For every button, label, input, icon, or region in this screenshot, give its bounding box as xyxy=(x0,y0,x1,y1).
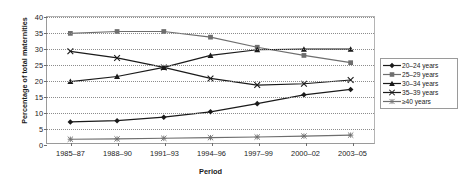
y-tick-label: 30 xyxy=(35,45,43,54)
series-layer xyxy=(47,17,374,143)
data-point-square xyxy=(208,35,213,40)
data-point-asterisk xyxy=(389,99,394,104)
data-point-diamond xyxy=(68,119,74,125)
data-point-diamond xyxy=(389,63,394,68)
gridline xyxy=(47,129,374,130)
x-axis-title: Period xyxy=(46,167,375,176)
y-axis-title: Percentage of total maternities xyxy=(20,1,29,141)
data-point-square xyxy=(390,72,395,77)
y-tick-mark xyxy=(44,33,47,34)
legend-marker-triangle-icon xyxy=(382,79,402,88)
x-tick-label: 2003–05 xyxy=(338,149,367,158)
series-line xyxy=(68,29,353,65)
legend-marker-asterisk-icon xyxy=(382,97,402,106)
gridline xyxy=(47,49,374,50)
legend-label: 35–39 years xyxy=(402,88,438,97)
x-tick-label: 1997–99 xyxy=(244,149,273,158)
y-tick-label: 35 xyxy=(35,29,43,38)
y-tick-mark xyxy=(44,49,47,50)
data-point-asterisk xyxy=(161,136,166,141)
x-tick-label: 1991–93 xyxy=(150,149,179,158)
data-point-square xyxy=(302,53,307,58)
data-point-diamond xyxy=(161,114,167,120)
series-line xyxy=(68,132,354,141)
legend-marker-square-icon xyxy=(382,70,402,79)
legend-marker-diamond-icon xyxy=(382,61,402,70)
y-tick-label: 20 xyxy=(35,77,43,86)
data-point-diamond xyxy=(348,87,354,93)
gridline xyxy=(47,97,374,98)
data-point-asterisk xyxy=(255,134,260,139)
legend-label: 20–24 years xyxy=(402,61,438,70)
gridline xyxy=(47,65,374,66)
data-point-asterisk xyxy=(68,137,73,142)
legend-item-1[interactable]: 25–29 years xyxy=(382,70,455,79)
chart-container: Percentage of total maternities 05101520… xyxy=(0,0,461,188)
gridline xyxy=(47,113,374,114)
x-tick-label: 2000–02 xyxy=(291,149,320,158)
data-point-asterisk xyxy=(348,132,353,137)
x-tick-mark xyxy=(212,143,213,146)
plot-area: 05101520253035401985–871988–901991–93199… xyxy=(46,16,375,144)
legend-marker-cross-icon xyxy=(382,88,402,97)
y-tick-label: 15 xyxy=(35,93,43,102)
legend-label: 30–34 years xyxy=(402,79,438,88)
legend: 20–24 years25–29 years30–34 years35–39 y… xyxy=(380,58,458,109)
x-tick-mark xyxy=(306,143,307,146)
y-tick-label: 40 xyxy=(35,13,43,22)
legend-item-2[interactable]: 30–34 years xyxy=(382,79,455,88)
legend-item-3[interactable]: 35–39 years xyxy=(382,88,455,97)
y-tick-mark xyxy=(44,17,47,18)
legend-item-4[interactable]: ≥40 years xyxy=(382,97,455,106)
legend-label: 25–29 years xyxy=(402,70,438,79)
y-tick-mark xyxy=(44,129,47,130)
y-tick-mark xyxy=(44,97,47,98)
x-tick-label: 1988–90 xyxy=(103,149,132,158)
y-tick-label: 5 xyxy=(39,125,43,134)
y-tick-label: 0 xyxy=(39,141,43,150)
x-tick-mark xyxy=(71,143,72,146)
gridline xyxy=(47,33,374,34)
plot-inner: 05101520253035401985–871988–901991–93199… xyxy=(47,17,374,143)
y-tick-mark xyxy=(44,113,47,114)
gridline xyxy=(47,81,374,82)
x-tick-mark xyxy=(259,143,260,146)
gridline xyxy=(47,17,374,18)
legend-label: ≥40 years xyxy=(402,97,431,106)
data-point-diamond xyxy=(114,118,120,124)
y-tick-label: 25 xyxy=(35,61,43,70)
y-tick-mark xyxy=(44,65,47,66)
series-line xyxy=(68,87,354,125)
x-tick-mark xyxy=(118,143,119,146)
x-tick-label: 1994–96 xyxy=(197,149,226,158)
data-point-asterisk xyxy=(208,135,213,140)
x-tick-label: 1985–87 xyxy=(56,149,85,158)
data-point-asterisk xyxy=(301,133,306,138)
y-tick-mark xyxy=(44,81,47,82)
x-tick-mark xyxy=(353,143,354,146)
data-point-asterisk xyxy=(114,136,119,141)
y-tick-mark xyxy=(44,145,47,146)
data-point-diamond xyxy=(254,101,260,107)
x-tick-mark xyxy=(165,143,166,146)
legend-item-0[interactable]: 20–24 years xyxy=(382,61,455,70)
y-tick-label: 10 xyxy=(35,109,43,118)
